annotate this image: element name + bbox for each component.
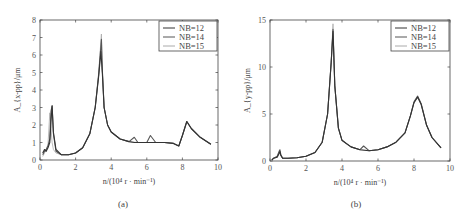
panel-caption-b: (b) [326, 199, 386, 209]
x-tick-label: 4 [109, 163, 113, 172]
chart-panel-a: 0246810012345678n/(10⁴ r · min⁻¹)A_{x-pp… [0, 0, 233, 219]
x-tick-label: 10 [446, 164, 454, 173]
line-chart-a: 0246810012345678n/(10⁴ r · min⁻¹)A_{x-pp… [0, 0, 233, 219]
x-tick-label: 6 [145, 163, 149, 172]
y-tick-label: 2 [32, 121, 36, 130]
y-tick-label: 5 [262, 110, 266, 119]
series-line-nb-15 [43, 34, 211, 157]
y-tick-label: 10 [258, 63, 266, 72]
y-axis-label: A_{y-pp}/μm [243, 67, 252, 113]
y-tick-label: 0 [32, 156, 36, 165]
x-tick-label: 10 [214, 163, 222, 172]
y-tick-label: 8 [32, 16, 36, 25]
x-tick-label: 4 [340, 164, 344, 173]
x-tick-label: 2 [304, 164, 308, 173]
y-tick-label: 6 [32, 51, 36, 60]
y-tick-label: 15 [258, 16, 266, 25]
x-tick-label: 0 [268, 164, 272, 173]
series-line-nb-12 [43, 52, 211, 155]
x-tick-label: 6 [376, 164, 380, 173]
y-axis-label: A_{x-pp}/μm [13, 67, 22, 113]
legend-label: NB=15 [411, 41, 436, 51]
x-axis-label: n/(10⁴ r · min⁻¹) [103, 177, 156, 186]
y-tick-label: 3 [32, 104, 36, 113]
x-axis-label: n/(10⁴ r · min⁻¹) [334, 178, 387, 187]
x-tick-label: 8 [412, 164, 416, 173]
panel-caption-a: (a) [93, 199, 153, 209]
x-tick-label: 0 [38, 163, 42, 172]
x-tick-label: 8 [180, 163, 184, 172]
y-tick-label: 4 [32, 86, 36, 95]
series-line-nb-14 [43, 39, 211, 155]
legend-label: NB=15 [179, 41, 204, 51]
line-chart-b: 0246810051015n/(10⁴ r · min⁻¹)A_{y-pp}/μ… [233, 0, 466, 219]
y-tick-label: 5 [32, 69, 36, 78]
y-tick-label: 1 [32, 139, 36, 148]
y-tick-label: 7 [32, 34, 36, 43]
chart-panel-b: 0246810051015n/(10⁴ r · min⁻¹)A_{y-pp}/μ… [233, 0, 466, 219]
x-tick-label: 2 [74, 163, 78, 172]
y-tick-label: 0 [262, 157, 266, 166]
